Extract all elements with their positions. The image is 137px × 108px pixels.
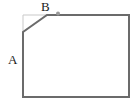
vertex-label-a: A: [8, 53, 17, 66]
top-edge-dot: [56, 12, 60, 16]
figure-canvas: [0, 0, 137, 108]
vertex-label-b: B: [41, 0, 50, 13]
shape-outline: [23, 15, 129, 97]
geometry-figure: B A: [0, 0, 137, 108]
